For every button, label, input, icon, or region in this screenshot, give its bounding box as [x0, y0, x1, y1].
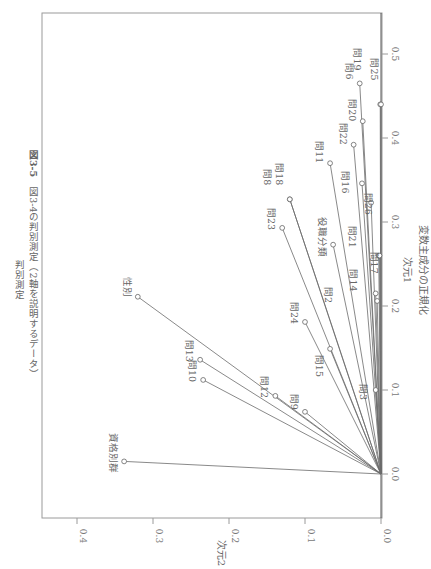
- point-label: 問17: [369, 252, 380, 274]
- data-point: [360, 181, 365, 186]
- data-point: [328, 161, 333, 166]
- data-point: [303, 409, 308, 414]
- dim1-tick-label: 0.4: [390, 131, 400, 146]
- point-label: 問20: [347, 99, 358, 121]
- data-point: [373, 388, 378, 393]
- data-point: [122, 459, 127, 464]
- point-label: 問23: [266, 208, 277, 230]
- data-point: [379, 102, 384, 107]
- x-axis-sublabel: 変数主成分の正規化: [418, 225, 430, 315]
- dim1-tick-label: 0.3: [390, 215, 400, 230]
- point-label: 問14: [348, 269, 359, 291]
- data-point: [303, 320, 308, 325]
- point-label: 問19: [352, 48, 363, 70]
- point-label: 問10: [187, 360, 198, 382]
- point-label: 問16: [340, 171, 351, 193]
- dim2-tick-label: 0.1: [306, 529, 316, 543]
- dim1-tick-label: 0.2: [390, 299, 400, 313]
- dim1-tick-label: 0.0: [390, 467, 400, 482]
- point-label: 問15: [314, 355, 325, 377]
- point-label: 問9: [289, 394, 300, 410]
- dim1-tick-label: 0.5: [390, 47, 400, 62]
- point-label: 役職分類: [317, 217, 328, 257]
- dim2-tick-label: 0.2: [230, 529, 240, 543]
- dim2-tick-label: 0.4: [78, 529, 88, 544]
- y-axis-label: 次元2: [216, 540, 228, 566]
- point-label: 問24: [289, 302, 300, 324]
- data-point: [287, 197, 292, 202]
- data-point: [360, 119, 365, 124]
- point-label: 問11: [314, 141, 325, 163]
- data-point: [357, 81, 362, 86]
- dim2-tick-label: 0.0: [382, 529, 392, 544]
- biplot-chart: 0.00.10.20.30.40.50.00.10.20.30.4 資格別群性別…: [0, 0, 431, 569]
- data-point: [135, 294, 140, 299]
- point-label: 問8: [262, 169, 273, 185]
- point-label: 問13: [184, 340, 195, 362]
- data-point: [331, 242, 336, 247]
- point-label: 資格別群: [108, 433, 119, 473]
- point-label: 性別: [122, 277, 133, 297]
- data-point: [351, 142, 356, 147]
- dim2-tick-label: 0.3: [154, 529, 164, 544]
- point-label: 問2: [323, 287, 334, 303]
- point-label: 問26: [363, 193, 374, 215]
- point-label: 問22: [338, 123, 349, 145]
- data-point: [328, 346, 333, 351]
- point-labels: 資格別群性別問13問10問12問9問15問24問23問8問18役職分類問11問2…: [108, 48, 380, 473]
- data-point: [375, 299, 380, 304]
- point-label: 問21: [347, 226, 358, 248]
- data-point: [280, 225, 285, 230]
- data-point: [273, 393, 278, 398]
- x-axis-label: 次元1: [402, 257, 414, 283]
- data-point: [201, 378, 206, 383]
- data-point: [373, 291, 378, 296]
- point-label: 問3: [358, 384, 369, 400]
- dim1-tick-label: 0.1: [390, 383, 400, 397]
- point-label: 問18: [274, 163, 285, 185]
- point-label: 問25: [369, 58, 380, 80]
- point-label: 問12: [259, 376, 270, 398]
